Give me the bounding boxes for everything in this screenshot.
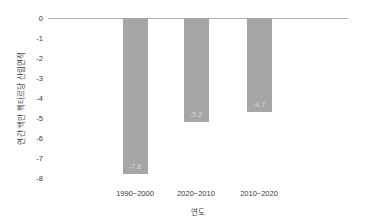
x-tick-label: 2010~2020 [240, 189, 278, 198]
x-tick-label: 2020~2010 [177, 189, 215, 198]
x-axis-ticks: 1990~20002020~20102010~2020 [0, 189, 365, 199]
bar-chart-figure: 연간 백만 헥타르당 산림면적 0-1-2-3-4-5-6-7-8 -7.8-5… [0, 0, 365, 223]
bar-value-label: -4.7 [247, 101, 272, 108]
x-axis-title: 연도 [191, 206, 205, 217]
bar-value-label: -5.2 [184, 111, 209, 118]
bar: -4.7 [247, 18, 272, 112]
bar: -7.8 [123, 18, 148, 174]
bar: -5.2 [184, 18, 209, 122]
bar-value-label: -7.8 [123, 163, 148, 170]
x-tick-label: 1990~2000 [116, 189, 154, 198]
